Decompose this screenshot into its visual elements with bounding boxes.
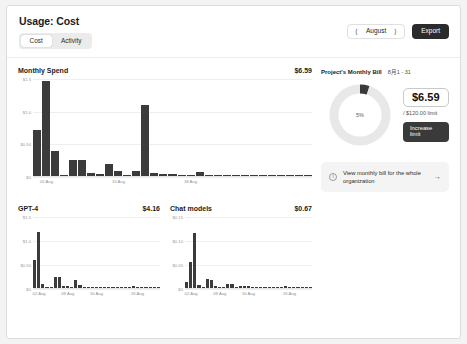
bar[interactable] — [140, 287, 143, 288]
chevron-left-icon[interactable]: ⟨ — [353, 28, 361, 35]
increase-limit-button[interactable]: Increase limit — [403, 122, 449, 142]
bar[interactable] — [54, 277, 57, 288]
bar[interactable] — [268, 287, 271, 288]
bar[interactable] — [149, 287, 152, 288]
bar[interactable] — [42, 81, 50, 176]
bar[interactable] — [66, 286, 69, 288]
bar[interactable] — [243, 286, 246, 288]
bar[interactable] — [150, 173, 158, 176]
bar[interactable] — [305, 287, 308, 288]
bar[interactable] — [87, 287, 90, 288]
bar[interactable] — [136, 287, 139, 288]
bar[interactable] — [178, 175, 186, 176]
bar[interactable] — [288, 287, 291, 288]
bar[interactable] — [185, 282, 188, 288]
bar[interactable] — [116, 287, 119, 288]
bar[interactable] — [144, 287, 147, 288]
bar[interactable] — [292, 287, 295, 288]
bar[interactable] — [263, 287, 266, 288]
bar[interactable] — [87, 173, 95, 176]
bar[interactable] — [114, 171, 122, 176]
bar[interactable] — [250, 175, 258, 176]
bar[interactable] — [193, 233, 196, 288]
bar[interactable] — [214, 175, 222, 176]
bar[interactable] — [111, 287, 114, 288]
bar[interactable] — [241, 175, 249, 176]
bar[interactable] — [33, 260, 36, 288]
bar[interactable] — [95, 287, 98, 288]
bar[interactable] — [268, 175, 276, 176]
bar[interactable] — [230, 284, 233, 288]
bar[interactable] — [132, 286, 135, 288]
bar[interactable] — [251, 287, 254, 288]
bar[interactable] — [235, 287, 238, 288]
export-button[interactable]: Export — [412, 24, 449, 39]
bar[interactable] — [51, 151, 59, 176]
bar[interactable] — [157, 287, 160, 288]
tab-cost[interactable]: Cost — [21, 35, 52, 48]
bar[interactable] — [120, 287, 123, 288]
bar[interactable] — [96, 174, 104, 176]
bar[interactable] — [196, 172, 204, 176]
bar[interactable] — [284, 286, 287, 288]
bar[interactable] — [99, 287, 102, 288]
bar[interactable] — [70, 287, 73, 288]
bar[interactable] — [222, 287, 225, 288]
bar[interactable] — [78, 160, 86, 176]
bar[interactable] — [189, 262, 192, 288]
bar[interactable] — [78, 285, 81, 288]
bar[interactable] — [259, 175, 267, 176]
organization-bill-banner[interactable]: i View monthly bill for the whole organi… — [321, 162, 449, 193]
bar[interactable] — [218, 287, 221, 288]
bar[interactable] — [276, 287, 279, 288]
bar[interactable] — [69, 160, 77, 176]
bar[interactable] — [210, 280, 213, 288]
bar[interactable] — [45, 287, 48, 288]
bar[interactable] — [272, 287, 275, 288]
bar[interactable] — [91, 287, 94, 288]
bar[interactable] — [259, 287, 262, 288]
bar[interactable] — [58, 277, 61, 288]
bar[interactable] — [74, 280, 77, 288]
bar[interactable] — [286, 175, 294, 176]
bar[interactable] — [60, 175, 68, 176]
bar[interactable] — [214, 286, 217, 288]
bar[interactable] — [255, 287, 258, 288]
bar[interactable] — [132, 171, 140, 176]
bar[interactable] — [205, 175, 213, 176]
bar[interactable] — [159, 174, 167, 176]
bar[interactable] — [232, 175, 240, 176]
bar[interactable] — [37, 232, 40, 288]
bar[interactable] — [62, 286, 65, 288]
tab-activity[interactable]: Activity — [52, 35, 91, 48]
bar[interactable] — [50, 287, 53, 288]
bar[interactable] — [103, 287, 106, 288]
bar[interactable] — [83, 287, 86, 288]
bar[interactable] — [295, 175, 303, 176]
bar[interactable] — [128, 287, 131, 288]
bar[interactable] — [33, 130, 41, 176]
bar[interactable] — [277, 175, 285, 176]
bar[interactable] — [153, 287, 156, 288]
bar[interactable] — [309, 287, 312, 288]
bar[interactable] — [168, 174, 176, 176]
bar[interactable] — [280, 287, 283, 288]
bar[interactable] — [247, 286, 250, 288]
bar[interactable] — [105, 164, 113, 176]
bar[interactable] — [301, 287, 304, 288]
bar[interactable] — [107, 287, 110, 288]
bar[interactable] — [141, 105, 149, 176]
bar[interactable] — [206, 279, 209, 288]
bar[interactable] — [41, 284, 44, 288]
bar[interactable] — [124, 287, 127, 288]
bar[interactable] — [123, 175, 131, 176]
bar[interactable] — [197, 285, 200, 288]
bar[interactable] — [223, 175, 231, 176]
bar[interactable] — [239, 286, 242, 288]
bar[interactable] — [304, 175, 312, 176]
bar[interactable] — [202, 287, 205, 288]
bar[interactable] — [226, 284, 229, 288]
bar[interactable] — [187, 175, 195, 176]
chevron-right-icon[interactable]: ⟩ — [391, 28, 399, 35]
bar[interactable] — [296, 287, 299, 288]
